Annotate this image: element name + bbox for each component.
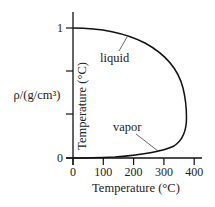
y-tick-label-0: 0 — [57, 151, 63, 165]
x-axis-label: Temperature (°C) — [92, 181, 180, 195]
x-tick-label-200: 200 — [125, 165, 143, 179]
y-tick-label-1: 1 — [57, 21, 63, 35]
x-tick-label-100: 100 — [94, 165, 112, 179]
liquid-annotation: liquid — [100, 51, 130, 65]
x-ticks — [73, 158, 194, 165]
inner-y-axis-label: Temperature (°C) — [75, 62, 89, 150]
x-tick-label-300: 300 — [155, 165, 173, 179]
y-ticks — [66, 28, 73, 158]
y-axis-label: ρ/(g/cm³) — [14, 88, 61, 102]
x-tick-label-0: 0 — [70, 165, 76, 179]
liquid-curve — [73, 28, 187, 118]
vapor-annotation: vapor — [113, 120, 142, 134]
vapor-leader-line — [136, 134, 158, 151]
x-tick-label-400: 400 — [185, 165, 203, 179]
phase-density-chart: 1 0 0 100 200 300 400 ρ/(g/cm³) Temperat… — [0, 0, 215, 207]
liquid-leader-line — [119, 37, 127, 51]
